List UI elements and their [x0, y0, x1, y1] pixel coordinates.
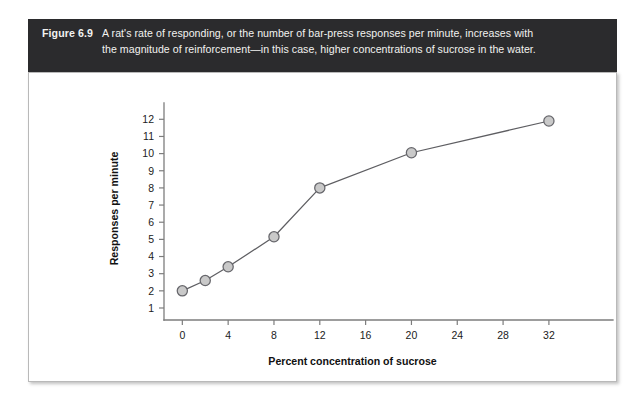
plot-area: 123456789101112 048121620242832 Percent …: [29, 73, 618, 383]
caption-text-line-1: A rat's rate of responding, or the numbe…: [102, 27, 533, 39]
y-axis-ticks: 123456789101112: [142, 113, 164, 314]
x-axis-ticks: 048121620242832: [179, 320, 554, 341]
x-tick-label: 0: [179, 329, 185, 341]
y-tick-label: 6: [148, 216, 154, 228]
x-tick-label: 32: [543, 329, 555, 341]
y-tick-label: 4: [148, 250, 154, 262]
x-tick-label: 4: [225, 329, 231, 341]
y-tick-label: 1: [148, 302, 154, 314]
y-tick-label: 10: [142, 147, 154, 159]
y-axis-title: Responses per minute: [108, 152, 120, 266]
x-tick-label: 16: [360, 329, 372, 341]
y-tick-label: 9: [148, 165, 154, 177]
caption-text-line-2: the magnitude of reinforcement—in this c…: [42, 42, 603, 58]
data-point: [269, 232, 279, 242]
x-tick-label: 12: [314, 329, 326, 341]
y-tick-label: 8: [148, 182, 154, 194]
data-point: [315, 183, 325, 193]
x-tick-label: 24: [451, 329, 463, 341]
figure-panel: 123456789101112 048121620242832 Percent …: [28, 72, 617, 382]
figure-root: Figure 6.9A rat's rate of responding, or…: [0, 0, 637, 405]
y-tick-label: 3: [148, 267, 154, 279]
y-tick-label: 5: [148, 233, 154, 245]
y-tick-label: 7: [148, 199, 154, 211]
caption-line-first: Figure 6.9A rat's rate of responding, or…: [42, 26, 603, 42]
line-chart: 123456789101112 048121620242832 Percent …: [29, 73, 618, 383]
figure-number-label: Figure 6.9: [42, 27, 93, 39]
data-point: [177, 286, 187, 296]
data-point: [223, 262, 233, 272]
data-series-line: [182, 121, 549, 291]
data-point: [406, 148, 416, 158]
x-tick-label: 20: [406, 329, 418, 341]
x-tick-label: 28: [497, 329, 509, 341]
y-tick-label: 12: [142, 113, 154, 125]
y-tick-label: 11: [143, 130, 154, 142]
data-points: [177, 116, 554, 296]
y-tick-label: 2: [148, 285, 154, 297]
x-axis-title: Percent concentration of sucrose: [268, 355, 436, 367]
data-point: [544, 116, 554, 126]
data-point: [200, 275, 210, 285]
figure-caption-banner: Figure 6.9A rat's rate of responding, or…: [28, 19, 617, 72]
x-tick-label: 8: [271, 329, 277, 341]
